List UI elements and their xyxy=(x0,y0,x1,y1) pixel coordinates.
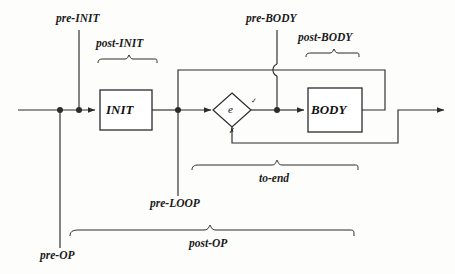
cross-icon: ✗ xyxy=(229,128,235,135)
dot-pre-loop xyxy=(175,107,181,113)
label-pre-op: pre-OP xyxy=(40,250,75,262)
dot-pre-body xyxy=(274,107,280,113)
brace-post-init xyxy=(98,55,157,63)
brace-to-end xyxy=(192,160,358,170)
label-pre-body: pre-BODY xyxy=(246,13,296,25)
diagram-canvas: INIT e BODY ✓ ✗ pre-INIT post-INIT pre-B… xyxy=(0,0,455,274)
label-pre-loop: pre-LOOP xyxy=(150,198,200,210)
node-init-label: INIT xyxy=(106,103,133,116)
dot-pre-init xyxy=(76,107,82,113)
brace-post-op xyxy=(70,225,354,236)
label-post-init: post-INIT xyxy=(96,38,143,50)
node-test-label: e xyxy=(228,104,233,115)
node-body-label: BODY xyxy=(311,103,346,116)
dot-pre-op xyxy=(57,107,63,113)
label-pre-init: pre-INIT xyxy=(56,13,99,25)
label-post-op: post-OP xyxy=(189,238,227,250)
diagram-vector-layer xyxy=(0,0,455,274)
label-to-end: to-end xyxy=(259,173,289,185)
brace-post-body xyxy=(306,49,359,57)
label-post-body: post-BODY xyxy=(298,32,352,44)
check-icon: ✓ xyxy=(251,98,257,105)
